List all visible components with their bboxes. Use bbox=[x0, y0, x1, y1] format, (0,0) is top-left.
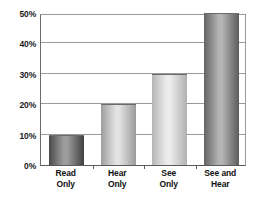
y-tick-label: 30% bbox=[0, 70, 36, 80]
bar-chart: 0%10%20%30%40%50% ReadOnlyHearOnlySeeOnl… bbox=[0, 0, 256, 203]
x-label-line-1: See bbox=[161, 168, 176, 178]
y-tick-label: 50% bbox=[0, 9, 36, 19]
x-label-line-1: See and bbox=[204, 168, 236, 178]
plot-area bbox=[40, 14, 246, 166]
x-axis-category-labels: ReadOnlyHearOnlySeeOnlySee andHear bbox=[40, 168, 246, 203]
bar-see-only bbox=[152, 74, 187, 165]
bar-read-only bbox=[49, 135, 84, 165]
x-label-line-1: Read bbox=[56, 168, 76, 178]
x-axis-label-see-and-hear: See andHear bbox=[188, 168, 252, 190]
bar-hear-only bbox=[101, 104, 136, 165]
y-tick-label: 40% bbox=[0, 39, 36, 49]
y-tick-label: 0% bbox=[0, 161, 36, 171]
y-tick-label: 20% bbox=[0, 100, 36, 110]
x-label-line-1: Hear bbox=[108, 168, 127, 178]
x-label-line-2: Hear bbox=[188, 179, 252, 190]
bars-group bbox=[41, 15, 245, 165]
bar-see-and-hear bbox=[204, 13, 239, 165]
y-tick-label: 10% bbox=[0, 131, 36, 141]
